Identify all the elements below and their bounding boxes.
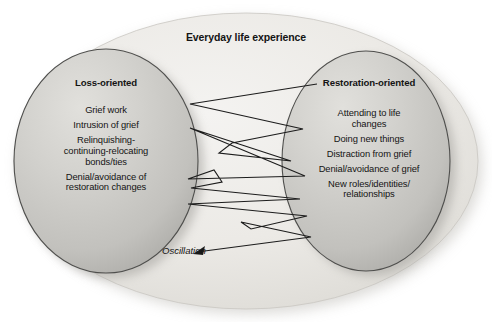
list-item: Attending to lifechanges	[291, 108, 447, 130]
list-item: Distraction from grief	[291, 149, 447, 160]
list-item: New roles/identities/relationships	[291, 179, 447, 201]
left-ellipse-title: Loss-oriented	[28, 77, 184, 88]
right-ellipse-item-list: Attending to lifechanges Doing new thing…	[291, 108, 447, 200]
right-ellipse-title: Restoration-oriented	[294, 77, 444, 88]
list-item: Denial/avoidance ofrestoration changes	[26, 172, 186, 194]
list-item: Grief work	[26, 105, 186, 116]
list-item: Relinquishing-continuing-relocatingbonds…	[26, 135, 186, 168]
diagram-canvas: Everyday life experience Loss-oriented R…	[0, 0, 492, 322]
left-ellipse-item-list: Grief work Intrusion of grief Relinquish…	[26, 105, 186, 193]
oscillation-label: Oscillation	[162, 245, 282, 256]
list-item: Doing new things	[291, 134, 447, 145]
list-item: Intrusion of grief	[26, 120, 186, 131]
diagram-title: Everyday life experience	[0, 31, 492, 43]
list-item: Denial/avoidance of grief	[291, 164, 447, 175]
